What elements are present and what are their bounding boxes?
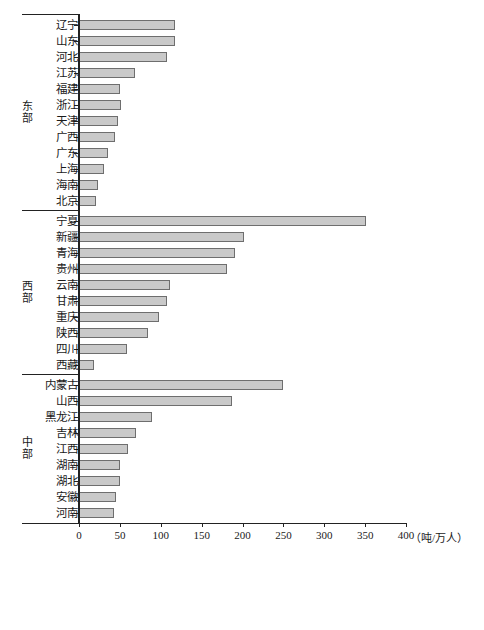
category-label: 内蒙古 [45,377,78,393]
bar [79,20,175,30]
bar [79,52,167,62]
bar-row: 辽宁 [0,17,484,33]
bar-row: 甘肃 [0,293,484,309]
bar [79,264,227,274]
x-axis-tick-label: 50 [114,529,125,541]
category-label: 北京 [56,193,78,209]
x-axis-tick [120,523,121,527]
bar [79,196,96,206]
bar-row: 湖北 [0,473,484,489]
category-label: 福建 [56,81,78,97]
category-label: 黑龙江 [45,409,78,425]
category-label: 新疆 [56,229,78,245]
category-label: 青海 [56,245,78,261]
bar [79,428,136,438]
bar [79,68,135,78]
bar [79,360,94,370]
x-axis-tick-label: 0 [76,529,82,541]
category-label: 天津 [56,113,78,129]
bar [79,164,104,174]
category-label: 浙江 [56,97,78,113]
bar [79,380,283,390]
bar [79,396,232,406]
category-label: 甘肃 [56,293,78,309]
category-label: 山西 [56,393,78,409]
bar [79,132,115,142]
bar-row: 新疆 [0,229,484,245]
bar-row: 浙江 [0,97,484,113]
x-axis-tick [406,523,407,527]
category-label: 重庆 [56,309,78,325]
x-axis-unit-label: （吨/万人） [410,529,468,545]
group-separator [22,374,79,375]
bar-row: 海南 [0,177,484,193]
category-label: 安徽 [56,489,78,505]
category-label: 四川 [56,341,78,357]
category-label: 江苏 [56,65,78,81]
group-separator [22,14,79,15]
bar [79,444,128,454]
bar-row: 四川 [0,341,484,357]
category-label: 山东 [56,33,78,49]
bar-row: 贵州 [0,261,484,277]
category-label: 河北 [56,49,78,65]
x-axis-tick-label: 350 [357,529,374,541]
bar-row: 广东 [0,145,484,161]
category-label: 辽宁 [56,17,78,33]
category-label: 上海 [56,161,78,177]
category-label: 云南 [56,277,78,293]
bar-chart: 辽宁山东河北江苏福建浙江天津广西广东上海海南北京宁夏新疆青海贵州云南甘肃重庆陕西… [0,0,484,630]
bar-row: 吉林 [0,425,484,441]
bar-row: 福建 [0,81,484,97]
bar-row: 陕西 [0,325,484,341]
x-axis-tick-label: 300 [316,529,333,541]
bar-row: 江西 [0,441,484,457]
bar [79,36,175,46]
x-axis-tick [365,523,366,527]
category-label: 吉林 [56,425,78,441]
category-label: 陕西 [56,325,78,341]
x-axis-tick [324,523,325,527]
bar [79,412,152,422]
bar [79,344,127,354]
bar [79,148,108,158]
category-label: 湖北 [56,473,78,489]
bar-row: 北京 [0,193,484,209]
bar-row: 上海 [0,161,484,177]
bar-row: 内蒙古 [0,377,484,393]
bar [79,216,366,226]
bar-row: 安徽 [0,489,484,505]
bar [79,296,167,306]
category-label: 江西 [56,441,78,457]
x-axis-tick-label: 150 [193,529,210,541]
bar-row: 江苏 [0,65,484,81]
region-group-label: 中部 [14,436,40,460]
bar [79,180,98,190]
bar [79,116,118,126]
bar [79,232,244,242]
x-axis-tick [161,523,162,527]
region-group-label: 西部 [14,280,40,304]
region-group-label: 东部 [14,100,40,124]
bar [79,312,159,322]
bar-row: 天津 [0,113,484,129]
group-separator [22,210,79,211]
bar [79,100,121,110]
category-label: 海南 [56,177,78,193]
bar-row: 重庆 [0,309,484,325]
y-axis [78,14,80,523]
bar [79,476,120,486]
category-label: 河南 [56,505,78,521]
category-label: 广西 [56,129,78,145]
bar [79,248,235,258]
bar-row: 青海 [0,245,484,261]
category-label: 宁夏 [56,213,78,229]
bar-row: 河南 [0,505,484,521]
bar [79,328,148,338]
bar-row: 云南 [0,277,484,293]
bar [79,84,120,94]
bar-row: 广西 [0,129,484,145]
x-axis-tick [79,523,80,527]
x-axis-tick [243,523,244,527]
bar [79,280,170,290]
